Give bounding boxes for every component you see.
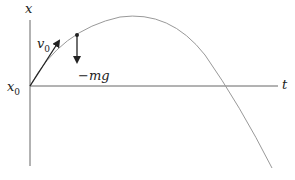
origin-label-sub: 0 — [14, 87, 20, 97]
trajectory-curve — [30, 16, 272, 168]
velocity-label: v0 — [37, 37, 50, 54]
force-label: −mg — [78, 69, 110, 82]
y-axis-label: x — [25, 2, 32, 15]
x-axis-label: t — [282, 78, 287, 91]
projectile-diagram: x t x0 v0 −mg — [0, 0, 295, 180]
origin-label: x0 — [7, 80, 20, 97]
diagram-canvas — [0, 0, 295, 180]
velocity-label-sub: 0 — [44, 44, 50, 54]
